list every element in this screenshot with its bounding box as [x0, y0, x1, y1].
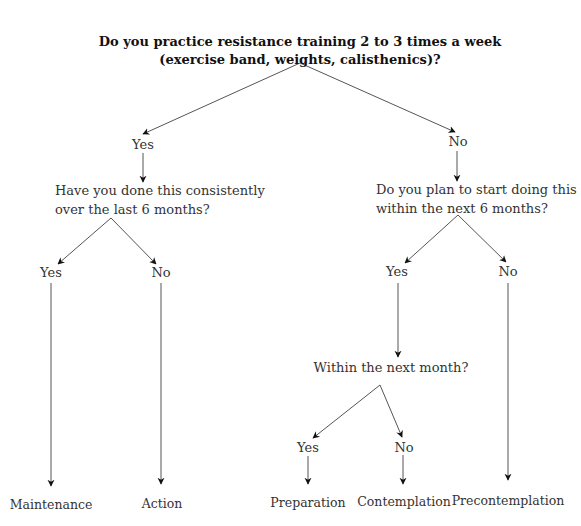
edge-q3-yes	[405, 215, 458, 263]
next-month-no-label: No	[394, 440, 413, 456]
plan-no-label: No	[498, 264, 517, 280]
root-yes-label: Yes	[132, 137, 154, 153]
plan-yes-label: Yes	[386, 264, 408, 280]
consistency-yes-label: Yes	[40, 265, 62, 281]
consistency-no-label: No	[151, 265, 170, 281]
outcome-action: Action	[142, 496, 183, 512]
edge-root-yes	[143, 63, 300, 134]
root-no-label: No	[448, 134, 467, 150]
consistency-question-line1: Have you done this consistently	[55, 183, 265, 199]
edge-q4-yes	[313, 385, 380, 438]
outcome-maintenance: Maintenance	[10, 497, 93, 513]
edge-q4-no	[380, 385, 402, 437]
outcome-precontemplation: Precontemplation	[452, 493, 565, 509]
decision-tree-edges	[0, 0, 581, 526]
plan-question-line2: within the next 6 months?	[376, 201, 548, 217]
next-month-question: Within the next month?	[314, 360, 469, 376]
plan-question-line1: Do you plan to start doing this	[376, 182, 577, 198]
outcome-contemplation: Contemplation	[357, 494, 450, 510]
consistency-question-line2: over the last 6 months?	[55, 202, 210, 218]
edge-q3-no	[458, 215, 506, 262]
edge-q2-no	[111, 218, 156, 264]
next-month-yes-label: Yes	[297, 440, 319, 456]
edge-root-no	[300, 63, 455, 132]
root-question-line2: (exercise band, weights, calisthenics)?	[159, 52, 440, 68]
root-question-line1: Do you practice resistance training 2 to…	[99, 34, 501, 50]
outcome-preparation: Preparation	[270, 495, 345, 511]
edge-q2-yes	[58, 218, 111, 264]
